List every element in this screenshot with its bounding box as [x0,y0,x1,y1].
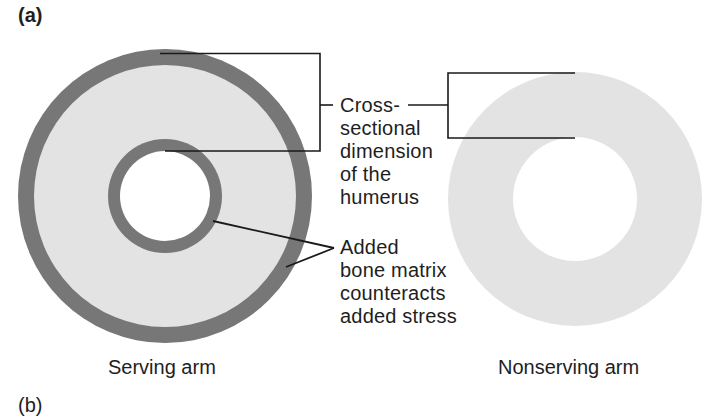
dimension-line-5: humerus [340,186,433,209]
added-matrix-line-1: Added [340,236,457,259]
added-matrix-line-2: bone matrix [340,259,457,282]
added-matrix-annotation: Added bone matrix counteracts added stre… [340,236,457,328]
nonserving-marrow-cavity [513,137,637,261]
caption-serving-arm: Serving arm [108,356,216,379]
serving-arm-cross-section [18,49,312,343]
dimension-line-3: dimension [340,140,433,163]
dimension-annotation: Cross- sectional dimension of the humeru… [340,94,433,209]
panel-label-b: (b) [18,394,42,417]
added-matrix-line-3: counteracts [340,282,457,305]
dimension-line-1: Cross- [340,94,433,117]
nonserving-arm-cross-section [448,72,702,326]
caption-nonserving-arm: Nonserving arm [498,356,639,379]
serving-marrow-cavity [120,151,210,241]
dimension-line-2: sectional [340,117,433,140]
added-matrix-line-4: added stress [340,305,457,328]
dimension-line-4: of the [340,163,433,186]
